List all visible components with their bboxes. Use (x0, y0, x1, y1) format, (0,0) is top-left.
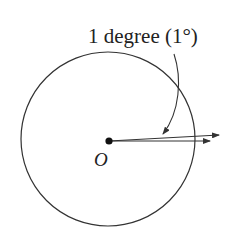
angle-diagram: 1 degree (1°) O (0, 0, 230, 233)
center-label: O (94, 149, 108, 170)
center-point (105, 137, 112, 144)
angle-label: 1 degree (1°) (88, 24, 198, 48)
label-pointer-arrow (163, 54, 179, 134)
ray-upper (109, 135, 219, 141)
